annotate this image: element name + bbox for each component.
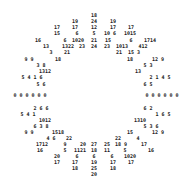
- number-token: 10 6: [104, 31, 116, 36]
- number-token: 11: [104, 148, 110, 153]
- number-token: 9 9: [24, 57, 33, 62]
- number-token: 9 9: [24, 130, 33, 135]
- number-token: 23: [79, 44, 85, 49]
- number-token: 18: [127, 57, 133, 62]
- number-token: 16: [35, 38, 41, 43]
- number-token: 1015: [124, 31, 136, 36]
- number-token: 5 4 1 6: [21, 75, 42, 80]
- number-token: 12 9: [152, 57, 164, 62]
- number-token: 4: [136, 136, 139, 141]
- number-token: 21: [64, 50, 70, 55]
- number-token: 6 5: [143, 82, 152, 87]
- number-token: 15 3: [128, 50, 140, 55]
- number-token: 18: [55, 57, 61, 62]
- number-token: 5 3: [143, 63, 152, 68]
- number-token: 22: [66, 136, 72, 141]
- number-token: 5 4 1: [20, 112, 35, 117]
- number-token: 6 3 8: [33, 124, 48, 129]
- number-token: 21: [116, 50, 122, 55]
- number-token: 13: [43, 44, 49, 49]
- number-token: 18: [72, 166, 78, 171]
- number-token: 18: [110, 166, 116, 171]
- number-token: 5: [92, 31, 95, 36]
- number-token: 3: [49, 50, 52, 55]
- number-token: 0 0 0 0 0 0: [13, 93, 46, 98]
- number-token: 16: [148, 148, 154, 153]
- number-token: 6 2: [143, 106, 152, 111]
- number-ring-figure: 181924191717121717156510 610151661020211…: [0, 0, 188, 185]
- number-token: 13: [135, 69, 141, 74]
- number-token: 0 0 0 0 0 0: [145, 93, 178, 98]
- number-token: 5: [63, 148, 66, 153]
- number-token: 17: [128, 160, 134, 165]
- number-token: 20: [91, 172, 97, 177]
- number-token: 15: [54, 31, 60, 36]
- number-token: 17: [54, 160, 60, 165]
- number-token: 17: [141, 142, 147, 147]
- number-token: 1 6 5: [155, 112, 170, 117]
- number-token: 15: [127, 130, 133, 135]
- number-token: 2 6 6: [33, 106, 48, 111]
- number-token: 24: [91, 44, 97, 49]
- number-token: 16: [37, 148, 43, 153]
- number-token: 6: [129, 38, 132, 43]
- number-token: 6: [75, 31, 78, 36]
- number-token: 23: [104, 44, 110, 49]
- number-token: 2 1 4 5: [149, 75, 170, 80]
- number-token: 12 9: [152, 130, 164, 135]
- number-token: 5 6: [36, 82, 45, 87]
